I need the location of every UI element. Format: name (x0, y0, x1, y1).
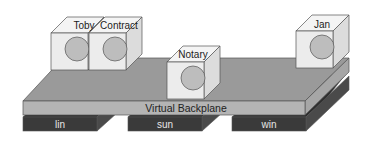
virtual-backplane-diagram: lin sun win Virtual Backplane Tob (0, 0, 366, 150)
platform-label-win: win (260, 119, 276, 130)
node-label-jan: Jan (314, 19, 330, 30)
node-label-toby: Toby (73, 20, 94, 31)
node-cube-jan: Jan (296, 15, 349, 68)
platform-label-sun: sun (157, 119, 173, 130)
node-cube-contract: Contract (89, 17, 142, 70)
backplane-label: Virtual Backplane (145, 102, 227, 114)
node-cube-notary: Notary (167, 46, 220, 99)
platform-label-lin: lin (55, 119, 65, 130)
node-label-notary: Notary (178, 49, 207, 60)
node-label-contract: Contract (100, 20, 138, 31)
